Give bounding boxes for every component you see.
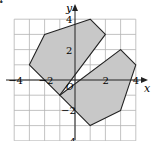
x-axis-label: x — [144, 82, 151, 95]
x-tick-label: 4 — [133, 75, 139, 86]
x-tick-label: −4 — [8, 75, 23, 86]
y-tick-label: −2 — [61, 105, 76, 116]
x-tick-label: −2 — [39, 75, 54, 86]
coordinate-plane-figure: x y O 4 −4−22442−2−4 — [0, 0, 151, 141]
y-tick-label: 4 — [66, 14, 72, 25]
y-tick-label: 2 — [66, 45, 72, 56]
polygons — [29, 19, 135, 125]
origin-label: O — [66, 82, 74, 92]
corner-mark: 4 — [0, 0, 3, 5]
y-tick-label: −4 — [61, 136, 76, 141]
x-tick-label: 2 — [102, 75, 108, 86]
y-axis-arrow-icon — [72, 4, 78, 11]
y-axis-label: y — [65, 2, 73, 15]
